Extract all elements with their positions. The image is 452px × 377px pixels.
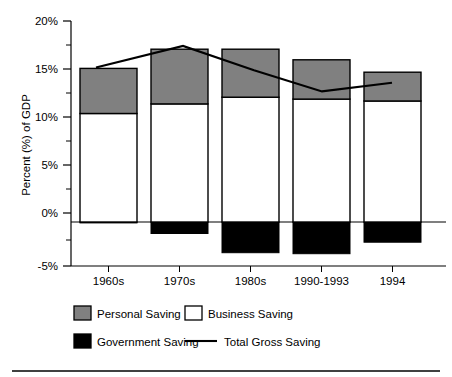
bar-group-1994	[364, 72, 421, 242]
bar-personal-1970s	[151, 49, 208, 104]
y-tick-label-neg5: -5%	[38, 260, 58, 272]
y-tick-label-5: 5%	[41, 159, 58, 171]
x-tick-label-1994: 1994	[380, 275, 406, 287]
bar-government-1970s	[151, 222, 208, 234]
legend-label-total-gross-saving: Total Gross Saving	[224, 336, 321, 348]
bar-business-1994	[364, 101, 421, 222]
bar-business-1980s	[222, 97, 279, 222]
bar-business-1960s	[80, 114, 137, 223]
x-tick-label-1970s: 1970s	[164, 275, 196, 287]
bar-group-1980s	[222, 49, 279, 253]
legend-label-personal-saving: Personal Saving	[97, 308, 181, 320]
chart-figure: 20% 15% 10% 5% 0% -5% Percent (%) of GDP	[0, 0, 452, 377]
bar-personal-1980s	[222, 49, 279, 97]
bar-personal-1994	[364, 72, 421, 101]
x-tick-label-1980s: 1980s	[235, 275, 267, 287]
y-axis-title: Percent (%) of GDP	[20, 94, 32, 196]
bar-group-1960s	[80, 68, 137, 223]
bar-government-1990-1993	[293, 222, 350, 254]
legend-label-government-saving: Government Saving	[97, 336, 199, 348]
legend-swatch-personal-saving	[74, 306, 91, 320]
bar-business-1990-1993	[293, 99, 350, 222]
x-tick-label-1960s: 1960s	[93, 275, 125, 287]
x-tick-label-1990-1993: 1990-1993	[294, 275, 349, 287]
legend-label-business-saving: Business Saving	[208, 308, 293, 320]
y-tick-label-0: 0%	[41, 207, 58, 219]
bar-personal-1960s	[80, 68, 137, 113]
legend-swatch-government-saving	[74, 334, 91, 348]
y-tick-label-15: 15%	[35, 63, 58, 75]
bar-government-1980s	[222, 222, 279, 253]
bar-business-1970s	[151, 104, 208, 222]
legend-swatch-business-saving	[185, 306, 202, 320]
bar-personal-1990-1993	[293, 60, 350, 99]
y-tick-label-10: 10%	[35, 111, 58, 123]
saving-stacked-bar-chart: 20% 15% 10% 5% 0% -5% Percent (%) of GDP	[0, 0, 452, 377]
bar-group-1970s	[151, 49, 208, 233]
bar-government-1994	[364, 222, 421, 242]
y-tick-label-20: 20%	[35, 15, 58, 27]
